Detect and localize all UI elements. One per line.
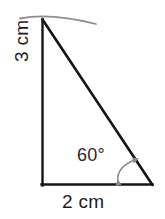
angle-double-arrow-icon xyxy=(118,160,136,183)
vertical-side-label: 3 cm xyxy=(12,20,31,62)
geometry-diagram: 3 cm 2 cm 60° xyxy=(0,0,165,219)
base-side-label: 2 cm xyxy=(62,192,104,211)
angle-label: 60° xyxy=(77,146,105,164)
